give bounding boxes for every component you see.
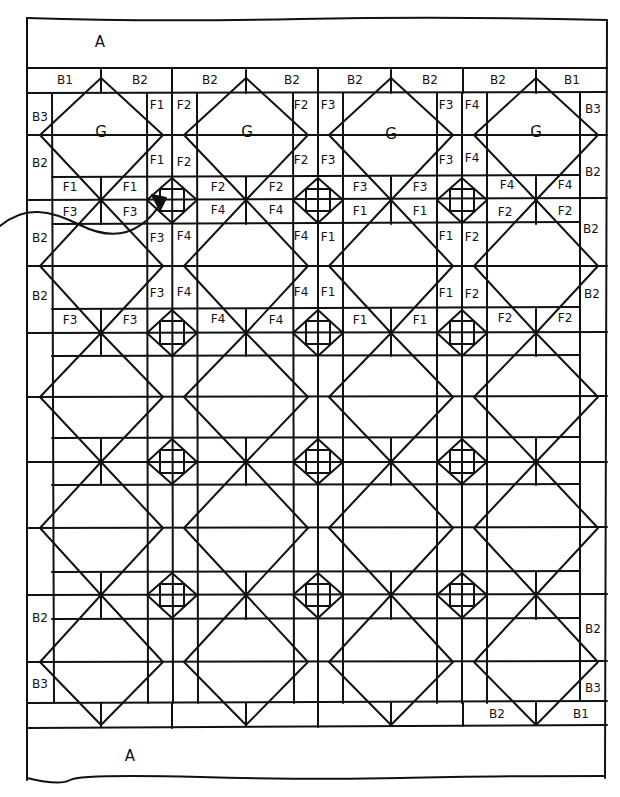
piece-label-a_bot: A xyxy=(125,749,135,764)
piece-label-s2b: F3 xyxy=(321,99,336,111)
piece-label-g2: G xyxy=(241,125,253,140)
piece-label-v3d: F2 xyxy=(465,288,480,300)
piece-label-b1: B2 xyxy=(489,708,505,720)
piece-label-t8: B1 xyxy=(564,74,580,86)
piece-label-r1: B3 xyxy=(585,103,601,115)
piece-label-s1a: F1 xyxy=(150,99,165,111)
piece-label-v1c: F3 xyxy=(150,287,165,299)
piece-label-g1: G xyxy=(95,125,107,140)
piece-label-s1b: F2 xyxy=(177,99,192,111)
piece-label-v2b: F1 xyxy=(321,231,336,243)
piece-label-s1d: F2 xyxy=(177,156,192,168)
piece-label-l1: B3 xyxy=(32,111,48,123)
piece-label-r6: B3 xyxy=(585,682,601,694)
piece-label-t3: B2 xyxy=(202,74,218,86)
piece-label-h2a: F3 xyxy=(63,206,78,218)
curved-pointer-line xyxy=(0,200,163,234)
piece-label-h1d: F2 xyxy=(269,181,284,193)
piece-label-h3f: F1 xyxy=(413,314,428,326)
piece-label-r2: B2 xyxy=(585,166,601,178)
piece-label-h1a: F1 xyxy=(63,181,78,193)
piece-label-h3a: F3 xyxy=(63,314,78,326)
piece-label-s3c: F3 xyxy=(439,154,454,166)
piece-label-h3h: F2 xyxy=(558,312,573,324)
piece-label-v2c: F4 xyxy=(294,286,309,298)
piece-label-s3a: F3 xyxy=(439,99,454,111)
piece-label-h1e: F3 xyxy=(353,181,368,193)
piece-label-v3c: F1 xyxy=(439,287,454,299)
piece-label-h3c: F4 xyxy=(211,313,226,325)
piece-label-s2d: F3 xyxy=(321,154,336,166)
piece-label-h3d: F4 xyxy=(269,314,284,326)
piece-label-h3b: F3 xyxy=(123,314,138,326)
piece-label-v3a: F1 xyxy=(439,230,454,242)
piece-label-l3: B2 xyxy=(32,232,48,244)
piece-label-s2c: F2 xyxy=(294,154,309,166)
piece-label-g4: G xyxy=(530,125,542,140)
piece-label-h2b: F3 xyxy=(123,206,138,218)
piece-label-h2h: F2 xyxy=(558,205,573,217)
piece-label-l5: B2 xyxy=(32,612,48,624)
bottom-border-rows xyxy=(27,701,607,728)
piece-label-v1a: F3 xyxy=(150,232,165,244)
piece-label-v2a: F4 xyxy=(294,230,309,242)
piece-label-g3: G xyxy=(385,127,397,142)
piece-label-v3b: F2 xyxy=(465,231,480,243)
piece-label-h1f: F3 xyxy=(413,181,428,193)
piece-label-t2: B2 xyxy=(132,74,148,86)
piece-label-h1g: F4 xyxy=(500,179,515,191)
piece-label-s2a: F2 xyxy=(294,99,309,111)
piece-label-h1h: F4 xyxy=(558,179,573,191)
piece-label-l6: B3 xyxy=(32,678,48,690)
piece-label-s1c: F1 xyxy=(150,154,165,166)
piece-label-r3: B2 xyxy=(583,223,599,235)
piece-label-s3d: F4 xyxy=(465,152,480,164)
piece-label-t7: B2 xyxy=(490,74,506,86)
piece-label-v2d: F1 xyxy=(321,286,336,298)
piece-label-t6: B2 xyxy=(422,74,438,86)
quilt-grid-drawing xyxy=(0,0,620,797)
piece-label-t5: B2 xyxy=(347,74,363,86)
piece-label-h2c: F4 xyxy=(211,204,226,216)
piece-label-a_top: A xyxy=(95,35,105,50)
piece-label-r5: B2 xyxy=(585,623,601,635)
piece-label-h3g: F2 xyxy=(498,312,513,324)
piece-label-l2: B2 xyxy=(32,157,48,169)
piece-label-s3b: F4 xyxy=(465,99,480,111)
piece-label-h2f: F1 xyxy=(413,205,428,217)
piece-label-h3e: F1 xyxy=(353,314,368,326)
piece-label-h2g: F2 xyxy=(498,206,513,218)
piece-label-h2e: F1 xyxy=(353,205,368,217)
piece-label-t4: B2 xyxy=(284,74,300,86)
piece-label-v1d: F4 xyxy=(177,286,192,298)
piece-label-b2: B1 xyxy=(573,708,589,720)
piece-label-h2d: F4 xyxy=(269,204,284,216)
piece-label-h1c: F2 xyxy=(211,181,226,193)
piece-label-h1b: F1 xyxy=(123,181,138,193)
piece-label-l4: B2 xyxy=(32,290,48,302)
piece-label-t1: B1 xyxy=(57,74,73,86)
piece-label-v1b: F4 xyxy=(177,230,192,242)
vertical-grid-lines xyxy=(147,93,487,703)
piece-label-r4: B2 xyxy=(584,288,600,300)
